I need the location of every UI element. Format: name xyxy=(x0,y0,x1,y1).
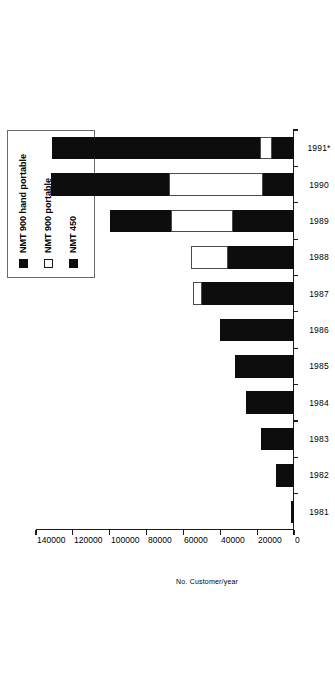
bar-segment xyxy=(52,137,260,160)
bar-stack xyxy=(276,464,294,487)
category-tick xyxy=(293,311,298,312)
bar-segment xyxy=(272,137,294,160)
value-axis xyxy=(36,529,294,530)
bar-segment xyxy=(169,173,263,196)
value-axis-title: No. Customer/year xyxy=(176,578,238,585)
category-label: 1987 xyxy=(297,289,335,299)
category-tick xyxy=(293,457,298,458)
bar-segment xyxy=(291,501,294,524)
plot-area: No. Customer/year 1981198219831984198519… xyxy=(36,130,294,530)
category-label: 1990 xyxy=(297,180,335,190)
bar-segment xyxy=(228,246,294,269)
category-tick xyxy=(293,239,298,240)
bar-segment xyxy=(246,391,294,414)
category-label: 1986 xyxy=(297,325,335,335)
bar-stack xyxy=(220,319,294,342)
category-tick xyxy=(293,202,298,203)
bar-stack xyxy=(110,210,294,233)
bar-segment xyxy=(263,173,294,196)
bar-segment xyxy=(202,282,294,305)
bar-stack xyxy=(191,246,294,269)
category-tick xyxy=(293,275,298,276)
bar-stack xyxy=(52,137,294,160)
bar-stack xyxy=(291,501,294,524)
category-tick xyxy=(293,166,298,167)
category-tick xyxy=(293,129,298,130)
bar-segment xyxy=(193,282,202,305)
category-label: 1983 xyxy=(297,434,335,444)
bar-segment xyxy=(110,210,171,233)
category-label: 1981 xyxy=(297,507,335,517)
category-tick xyxy=(293,420,298,421)
category-tick xyxy=(293,348,298,349)
bar-segment xyxy=(233,210,294,233)
category-label: 1985 xyxy=(297,361,335,371)
bar-segment xyxy=(235,355,294,378)
bar-stack xyxy=(193,282,294,305)
bar-segment xyxy=(51,173,169,196)
category-label: 1988 xyxy=(297,252,335,262)
category-tick xyxy=(293,384,298,385)
category-label: 1984 xyxy=(297,398,335,408)
bar-stack xyxy=(246,391,294,414)
category-label: 1989 xyxy=(297,216,335,226)
category-label: 1982 xyxy=(297,470,335,480)
bar-stack xyxy=(235,355,294,378)
category-tick xyxy=(293,493,298,494)
bar-stack xyxy=(261,428,294,451)
bar-segment xyxy=(191,246,228,269)
bar-segment xyxy=(260,137,272,160)
legend-label: NMT 900 hand portable xyxy=(18,154,28,253)
legend-item: NMT 900 hand portable xyxy=(18,154,28,268)
bar-segment xyxy=(171,210,234,233)
bar-stack xyxy=(51,173,294,196)
value-tick xyxy=(146,530,147,535)
bar-segment xyxy=(220,319,294,342)
category-label: 1991* xyxy=(297,143,335,153)
bar-segment xyxy=(261,428,294,451)
legend-swatch-icon xyxy=(19,259,28,268)
bar-segment xyxy=(276,464,294,487)
